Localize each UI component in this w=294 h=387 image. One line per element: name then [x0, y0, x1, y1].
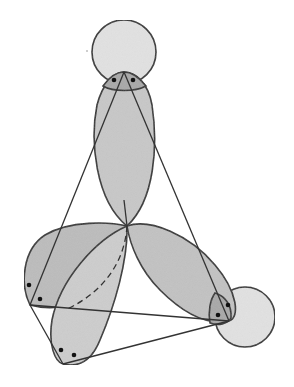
orbital-diagram	[0, 0, 294, 387]
dot	[226, 303, 231, 308]
dot	[72, 353, 77, 358]
dot	[131, 78, 136, 83]
dot	[112, 78, 117, 83]
orbital-group	[24, 20, 275, 365]
dot	[38, 297, 43, 302]
dot	[59, 348, 64, 353]
dot	[27, 283, 32, 288]
dot	[216, 313, 221, 318]
speck	[86, 50, 87, 51]
